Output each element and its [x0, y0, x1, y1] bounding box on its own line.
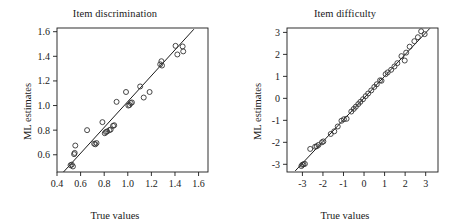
y-tick-label: 2	[275, 49, 280, 60]
figure-container: Item discrimination 0.40.60.81.01.21.41.…	[0, 0, 460, 224]
data-point	[180, 44, 185, 49]
y-tick-label: 1.0	[38, 100, 51, 111]
data-point	[181, 49, 186, 54]
data-point	[114, 99, 119, 104]
data-point	[85, 128, 90, 133]
data-point	[147, 90, 152, 95]
x-tick-label: -3	[298, 178, 306, 189]
x-tick-label: 3	[423, 178, 428, 189]
x-axis-title: True values	[0, 210, 230, 221]
y-tick-label: 3	[275, 27, 280, 38]
data-point	[404, 50, 409, 55]
x-tick-label: 1.6	[192, 178, 205, 189]
data-point	[407, 44, 412, 49]
x-tick-label: 1	[382, 178, 387, 189]
x-tick-label: 0.8	[98, 178, 111, 189]
y-tick-label: 1	[275, 71, 280, 82]
y-tick-label: 0.6	[38, 149, 51, 160]
y-tick-label: 0	[275, 93, 280, 104]
y-tick-label: 1.4	[38, 51, 51, 62]
x-axis-title: True values	[230, 210, 460, 221]
y-tick-label: 1.2	[38, 75, 51, 86]
scatter-plot-item-difficulty: -3-2-10123-3-2-10123	[230, 0, 460, 224]
data-point	[415, 35, 420, 40]
x-tick-label: -2	[319, 178, 327, 189]
data-point	[100, 120, 105, 125]
data-point	[141, 95, 146, 100]
data-points	[68, 43, 186, 169]
y-axis-title: ML estimates	[22, 83, 33, 140]
x-tick-label: 2	[403, 178, 408, 189]
data-point	[402, 58, 407, 63]
y-tick-label: 1.6	[38, 26, 51, 37]
y-tick-label: -1	[272, 115, 280, 126]
x-tick-label: 0.4	[51, 178, 64, 189]
y-tick-label: -3	[272, 159, 280, 170]
y-axis-title: ML estimates	[252, 83, 263, 140]
data-point	[73, 143, 78, 148]
x-tick-label: 1.0	[122, 178, 135, 189]
y-tick-label: 0.8	[38, 125, 51, 136]
reference-line	[63, 29, 193, 172]
panel-item-difficulty: Item difficulty -3-2-10123-3-2-10123 Tru…	[230, 0, 460, 224]
data-point	[173, 43, 178, 48]
data-point	[175, 52, 180, 57]
scatter-plot-item-discrimination: 0.40.60.81.01.21.41.60.60.81.01.21.41.6	[0, 0, 230, 224]
data-point	[124, 90, 129, 95]
x-tick-label: -1	[339, 178, 347, 189]
panel-item-discrimination: Item discrimination 0.40.60.81.01.21.41.…	[0, 0, 230, 224]
y-tick-label: -2	[272, 137, 280, 148]
data-point	[308, 146, 313, 151]
x-tick-label: 1.2	[145, 178, 158, 189]
x-tick-label: 0.6	[74, 178, 87, 189]
x-tick-label: 0	[362, 178, 367, 189]
x-tick-label: 1.4	[169, 178, 182, 189]
